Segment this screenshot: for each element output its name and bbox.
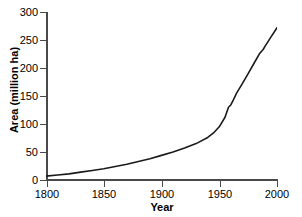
x-tick-label-1950: 1950	[198, 189, 242, 200]
x-tick-label-1850: 1850	[82, 189, 126, 200]
x-tick-1850	[104, 181, 105, 187]
y-tick-0	[40, 180, 46, 181]
data-line-irrigated-area	[46, 12, 277, 180]
x-tick-1800	[47, 181, 48, 187]
y-tick-label-0: 0	[2, 175, 38, 186]
x-tick-label-1800: 1800	[25, 189, 69, 200]
chart-figure: 300 250 200 150 100 50 0 1800 1850 1900 …	[0, 0, 302, 217]
x-tick-1950	[220, 181, 221, 187]
x-axis-title: Year	[46, 201, 278, 213]
x-tick-2000	[277, 181, 278, 187]
y-axis-title: Area (million ha)	[8, 10, 20, 170]
x-tick-label-1900: 1900	[140, 189, 184, 200]
x-tick-1900	[162, 181, 163, 187]
x-tick-label-2000: 2000	[255, 189, 299, 200]
